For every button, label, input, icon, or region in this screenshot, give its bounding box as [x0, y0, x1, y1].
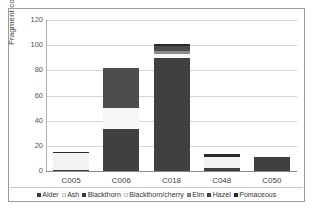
bar-segment[interactable] [204, 168, 240, 171]
y-tick-label: 40 [9, 117, 43, 125]
bar-segment[interactable] [204, 157, 240, 168]
legend-item[interactable]: Alder [37, 191, 59, 198]
legend-item[interactable]: Elm [187, 191, 205, 198]
bar-group[interactable] [96, 20, 146, 172]
y-tick-label: 60 [9, 92, 43, 100]
bar-segment[interactable] [154, 58, 190, 171]
x-tick-label: C050 [247, 174, 297, 188]
legend-item[interactable]: Blackthorn [82, 191, 121, 198]
legend-label: Ash [67, 191, 79, 198]
bar-group[interactable] [197, 20, 247, 172]
bar-segment[interactable] [53, 153, 89, 169]
bar-group[interactable] [46, 20, 96, 172]
bars-layer [46, 20, 297, 172]
legend-item[interactable]: Blackthorn/cherry [124, 191, 184, 198]
chart-legend: AlderAshBlackthornBlackthorn/cherryElmHa… [10, 187, 303, 201]
y-tick-label: 20 [9, 142, 43, 150]
legend-swatch-icon [124, 193, 128, 197]
legend-swatch-icon [207, 193, 211, 197]
legend-label: Blackthorn/cherry [129, 191, 183, 198]
y-tick-label: 100 [9, 41, 43, 49]
stacked-bar[interactable] [154, 44, 190, 171]
legend-label: Blackthorn [88, 191, 121, 198]
legend-label: Elm [192, 191, 204, 198]
legend-item[interactable]: Hazel [207, 191, 230, 198]
legend-swatch-icon [234, 193, 238, 197]
legend-swatch-icon [187, 193, 191, 197]
stacked-bar[interactable] [53, 152, 89, 171]
legend-label: Alder [42, 191, 58, 198]
legend-label: Pomaceous [239, 191, 276, 198]
plot-region [46, 20, 297, 172]
chart-container: Fragment count 020406080100120 C005C006C… [8, 8, 305, 202]
legend-item[interactable]: Ash [62, 191, 80, 198]
bar-segment[interactable] [103, 129, 139, 171]
legend-swatch-icon [62, 193, 66, 197]
y-tick-label: 120 [9, 16, 43, 24]
stacked-bar[interactable] [254, 157, 290, 171]
legend-swatch-icon [82, 193, 86, 197]
y-axis-tick-labels: 020406080100120 [7, 20, 43, 172]
x-tick-label: C005 [46, 174, 96, 188]
bar-group[interactable] [247, 20, 297, 172]
legend-swatch-icon [37, 193, 41, 197]
bar-group[interactable] [146, 20, 196, 172]
x-tick-label: C018 [146, 174, 196, 188]
bar-segment[interactable] [53, 170, 89, 171]
x-tick-label: C006 [96, 174, 146, 188]
y-tick-label: 80 [9, 67, 43, 75]
legend-label: Hazel [213, 191, 231, 198]
x-tick-label: C048 [197, 174, 247, 188]
bar-segment[interactable] [103, 108, 139, 129]
bar-segment[interactable] [254, 157, 290, 171]
stacked-bar[interactable] [103, 68, 139, 171]
stacked-bar[interactable] [204, 154, 240, 171]
legend-item[interactable]: Pomaceous [234, 191, 276, 198]
y-tick-label: 0 [9, 167, 43, 175]
bar-segment[interactable] [103, 68, 139, 108]
x-axis-tick-labels: C005C006C018C048C050 [46, 174, 297, 188]
